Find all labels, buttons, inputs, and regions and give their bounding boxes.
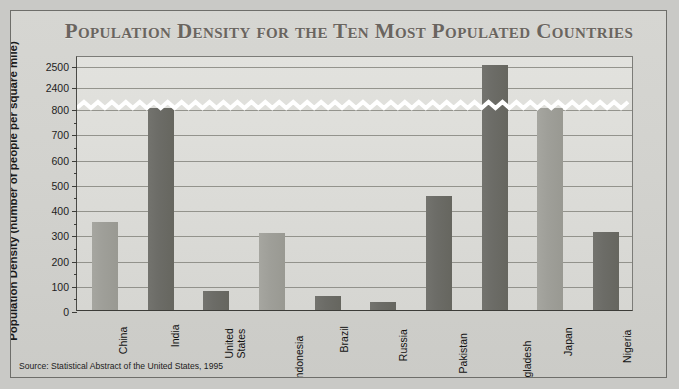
y-minor-tick <box>74 148 77 149</box>
chart-title: Population Density for the Ten Most Popu… <box>49 19 649 45</box>
y-tick <box>72 211 77 212</box>
y-tick-label: 2500 <box>27 61 69 73</box>
bar-russia <box>370 302 396 310</box>
x-tick-label-russia: Russia <box>398 329 410 361</box>
gridline <box>77 88 632 89</box>
y-tick-label: 600 <box>27 155 69 167</box>
x-tick-label-line: Bangladesh <box>521 341 533 378</box>
y-tick-label: 800 <box>27 104 69 116</box>
y-minor-tick <box>74 274 77 275</box>
y-tick <box>72 236 77 237</box>
x-tick-label-line: Nigeria <box>622 330 634 363</box>
x-tick-label-united-states: UnitedStates <box>224 328 247 358</box>
y-tick-label: 100 <box>27 281 69 293</box>
x-tick-label-line: States <box>236 328 248 358</box>
y-tick <box>72 88 77 89</box>
x-tick-label-line: India <box>171 324 183 347</box>
x-tick-label-india: India <box>171 324 183 347</box>
bar-japan <box>537 108 563 310</box>
y-tick <box>72 262 77 263</box>
y-tick <box>72 287 77 288</box>
plot-area: 250024008007006005004003002001000 <box>76 56 633 311</box>
y-minor-tick <box>74 224 77 225</box>
y-tick <box>72 186 77 187</box>
y-minor-tick <box>74 249 77 250</box>
y-tick <box>72 110 77 111</box>
bar-bangladesh <box>482 65 508 310</box>
y-minor-tick <box>74 299 77 300</box>
bar-india <box>148 108 174 310</box>
y-axis-title: Population Density (number of people per… <box>10 41 25 341</box>
y-tick <box>72 67 77 68</box>
y-tick <box>72 161 77 162</box>
bar-nigeria <box>593 232 619 310</box>
y-tick-label: 700 <box>27 129 69 141</box>
y-tick-label: 500 <box>27 180 69 192</box>
x-tick-label-indonesia: Indonesia <box>293 336 305 378</box>
x-tick-label-bangladesh: Bangladesh <box>521 341 533 378</box>
x-tick-label-pakistan: Pakistan <box>458 333 470 373</box>
y-tick <box>72 135 77 136</box>
x-tick-label-line: Japan <box>563 327 575 356</box>
x-tick-label-line: Brazil <box>340 326 352 352</box>
y-tick-label: 2400 <box>27 82 69 94</box>
y-tick-label: 200 <box>27 256 69 268</box>
gridline <box>77 67 632 68</box>
y-minor-tick <box>74 123 77 124</box>
y-tick-label: 400 <box>27 205 69 217</box>
bar-pakistan <box>426 196 452 310</box>
y-tick-label: 300 <box>27 230 69 242</box>
bar-united-states <box>203 291 229 310</box>
y-minor-tick <box>74 198 77 199</box>
x-tick-label-line: Indonesia <box>293 336 305 378</box>
bar-indonesia <box>259 233 285 310</box>
x-tick-label-line: Russia <box>398 329 410 361</box>
x-tick-label-brazil: Brazil <box>340 326 352 352</box>
y-tick-label: 0 <box>27 306 69 318</box>
bar-china <box>92 222 118 310</box>
x-tick-label-china: China <box>117 327 129 354</box>
y-minor-tick <box>74 173 77 174</box>
x-tick-label-line: China <box>117 327 129 354</box>
x-tick-label-japan: Japan <box>563 327 575 356</box>
chart-figure: Population Density for the Ten Most Popu… <box>10 10 667 378</box>
x-tick-label-line: Pakistan <box>458 333 470 373</box>
x-tick-label-nigeria: Nigeria <box>622 330 634 363</box>
x-axis-title: Country <box>76 375 633 378</box>
source-note: Source: Statistical Abstract of the Unit… <box>19 361 223 371</box>
bar-brazil <box>315 296 341 310</box>
